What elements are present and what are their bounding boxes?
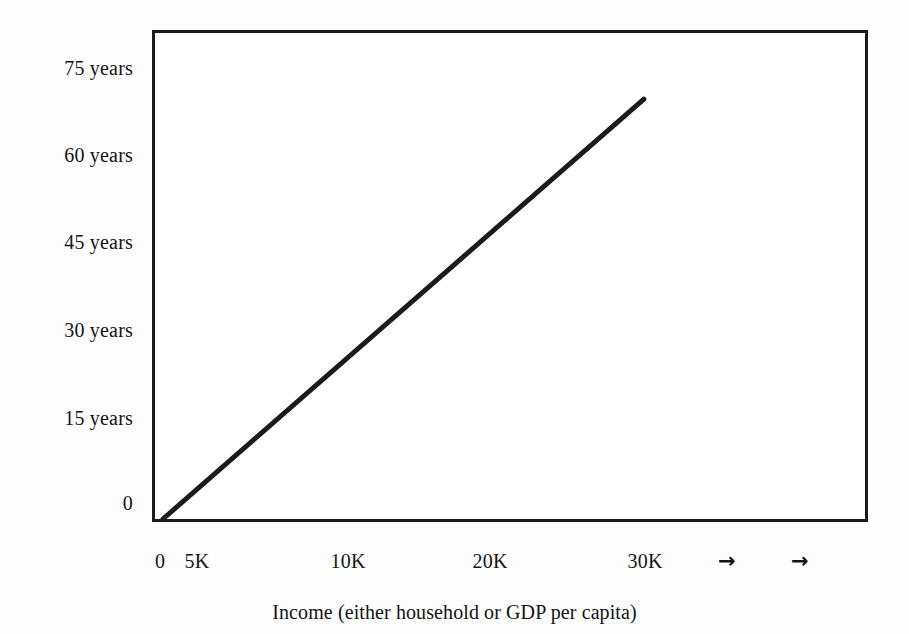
- x-axis-title: Income (either household or GDP per capi…: [0, 602, 909, 622]
- x-axis-tick-label: 0: [155, 551, 165, 571]
- plot-area: [152, 30, 868, 522]
- y-axis-tick-label: 60 years: [64, 145, 133, 165]
- x-axis-continuation-arrow-icon: →: [718, 551, 736, 572]
- y-axis-tick-label: 45 years: [64, 232, 133, 252]
- y-axis-tick-label: 0: [123, 493, 133, 513]
- x-axis-tick-label: 10K: [330, 551, 365, 571]
- y-axis-tick-label: 75 years: [64, 58, 133, 78]
- x-axis-tick-label: 30K: [627, 551, 662, 571]
- x-axis-tick-label: 5K: [185, 551, 210, 571]
- x-axis-tick-label: 20K: [472, 551, 507, 571]
- x-axis-continuation-arrow-icon: →: [791, 551, 809, 572]
- plot-canvas: [155, 33, 865, 519]
- chart-figure: 75 years 60 years 45 years 30 years 15 y…: [0, 0, 909, 634]
- y-axis-tick-label: 30 years: [64, 320, 133, 340]
- y-axis-tick-label: 15 years: [64, 408, 133, 428]
- data-line-life-expectancy: [163, 99, 644, 519]
